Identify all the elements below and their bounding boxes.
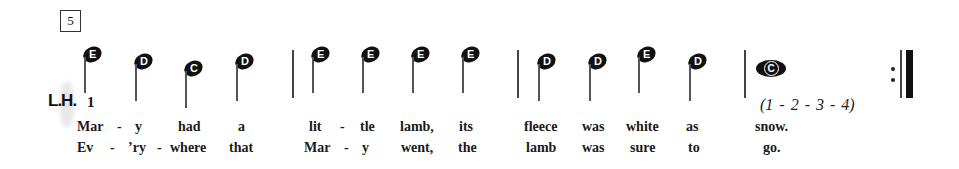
lyric: that <box>229 140 253 156</box>
lyric: sure <box>630 140 655 156</box>
note-letter: D <box>140 54 148 69</box>
lyric: Ev <box>77 140 93 156</box>
lyric: ’ry <box>128 140 146 156</box>
lyric: tle <box>360 119 375 135</box>
note-letter: E <box>317 47 324 62</box>
lyric: - <box>117 119 122 135</box>
lyric: Mar <box>77 119 103 135</box>
measure-number-box: 5 <box>60 10 81 32</box>
note-letter: D <box>543 54 551 69</box>
finger-number: 1 <box>87 94 95 111</box>
barline-3 <box>744 50 746 98</box>
barline-2 <box>517 50 519 98</box>
lyric: go. <box>763 140 781 156</box>
lyric: lamb, <box>400 119 434 135</box>
lyric: - <box>110 140 115 156</box>
lyric: its <box>459 119 473 135</box>
count-text: (1 - 2 - 3 - 4) <box>760 96 855 114</box>
lyric: snow. <box>755 119 788 135</box>
lyric: was <box>582 119 605 135</box>
lyric: where <box>170 140 206 156</box>
hand-label: L.H. <box>48 91 76 111</box>
lyric: white <box>626 119 659 135</box>
whole-note: C <box>756 60 786 77</box>
lyric: - <box>157 140 162 156</box>
repeat-dot-lower <box>891 78 895 82</box>
note-letter: E <box>367 47 374 62</box>
lyric: lit <box>309 119 321 135</box>
note-letter: C <box>190 61 198 76</box>
lyric: - <box>344 140 349 156</box>
note-letter: E <box>89 47 96 62</box>
lyric: a <box>238 119 245 135</box>
lyric: y <box>135 119 142 135</box>
lyric: as <box>686 119 698 135</box>
note-letter: E <box>467 47 474 62</box>
note-letter: E <box>417 47 424 62</box>
lyric: had <box>178 119 201 135</box>
lyric: went, <box>401 140 433 156</box>
lyric: to <box>688 140 700 156</box>
lyric: fleece <box>524 119 557 135</box>
repeat-thick-barline <box>906 50 913 98</box>
note-letter: D <box>694 54 702 69</box>
repeat-dot-upper <box>891 67 895 71</box>
note-letter: D <box>241 54 249 69</box>
lyric: - <box>340 119 345 135</box>
note-letter: D <box>594 54 602 69</box>
lyric: the <box>458 140 477 156</box>
repeat-thin-barline <box>900 50 902 98</box>
note-letter: E <box>643 47 650 62</box>
lyric: lamb <box>526 140 556 156</box>
barline-1 <box>292 50 294 98</box>
note-letter: C <box>764 61 779 76</box>
lyric: y <box>362 140 369 156</box>
lyric: Mar <box>304 140 330 156</box>
lyric: was <box>582 140 605 156</box>
